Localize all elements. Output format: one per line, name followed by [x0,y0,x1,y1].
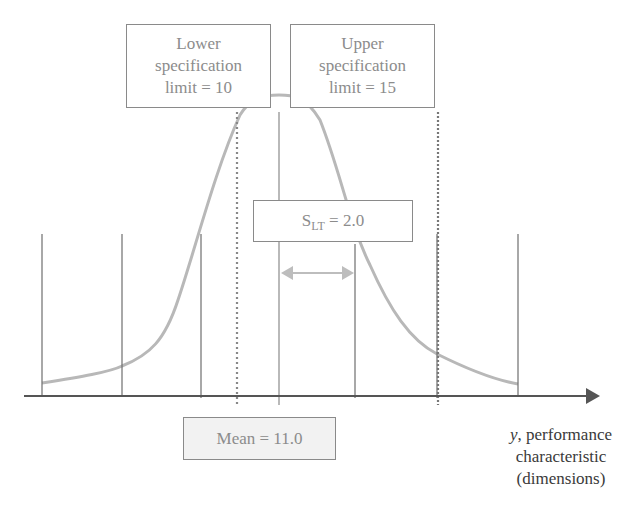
mean-label: Mean = 11.0 [217,428,303,450]
std-dev-value: = 2.0 [325,211,364,230]
upper-spec-line2: specification [319,55,406,77]
std-dev-arrow-right-icon [342,266,354,280]
axis-label-line1: , performance [518,425,612,444]
x-axis-arrowhead [586,388,600,404]
axis-label-line2: characteristic [490,446,632,468]
std-dev-box: SLT = 2.0 [253,200,413,242]
std-dev-symbol: S [302,211,311,230]
axis-variable: y [510,425,518,444]
lower-spec-line3: limit = 10 [155,77,242,99]
x-axis-label: y, performance characteristic (dimension… [490,424,632,490]
upper-spec-line1: Upper [319,33,406,55]
mean-box: Mean = 11.0 [183,417,336,460]
axis-label-line3: (dimensions) [490,468,632,490]
std-dev-arrow-left-icon [281,266,293,280]
lower-spec-line1: Lower [155,33,242,55]
lower-spec-line2: specification [155,55,242,77]
upper-spec-limit-box: Upper specification limit = 15 [290,24,435,108]
upper-spec-line3: limit = 15 [319,77,406,99]
lower-spec-limit-box: Lower specification limit = 10 [126,24,271,108]
std-dev-subscript: LT [311,219,325,233]
